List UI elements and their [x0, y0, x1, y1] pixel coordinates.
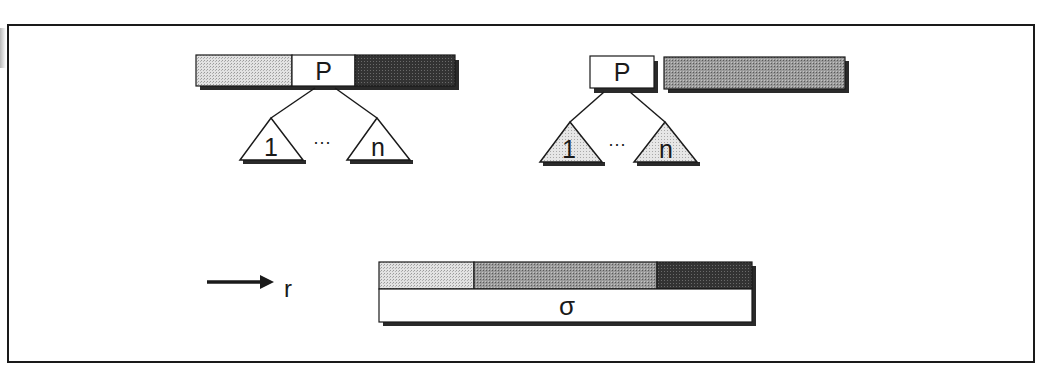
right-subtree-n-label: n	[659, 135, 673, 163]
left-edge-1	[271, 88, 315, 118]
diagram-canvas: P 1 ··· n P 1 ···	[0, 0, 1064, 379]
result-bar-light-segment	[379, 262, 474, 289]
left-bar-dark-segment	[355, 55, 455, 86]
left-ellipsis: ···	[313, 132, 331, 152]
right-edge-n	[630, 92, 665, 122]
left-subtree-n-label: n	[371, 133, 385, 161]
left-subtree-1-label: 1	[264, 133, 278, 161]
right-bar-medium-segment	[664, 57, 845, 89]
result-bar-sigma-label: σ	[559, 291, 575, 321]
arrow-r: r	[207, 275, 292, 302]
arrow-label: r	[284, 275, 292, 302]
right-node-p-label: P	[614, 58, 631, 86]
left-tree: P 1 ··· n	[196, 55, 459, 164]
right-ellipsis: ···	[608, 134, 626, 154]
result-bar-medium-segment	[474, 262, 657, 289]
right-subtree-1-label: 1	[562, 135, 576, 163]
arrow-head-icon	[260, 275, 274, 289]
result-bar: σ	[379, 262, 756, 326]
right-tree: P 1 ··· n	[540, 56, 849, 166]
result-bar-dark-segment	[657, 262, 752, 289]
right-edge-1	[570, 92, 604, 122]
left-bar-light-segment	[196, 55, 292, 86]
left-node-p-label: P	[315, 57, 332, 85]
left-edge-n	[335, 88, 377, 118]
